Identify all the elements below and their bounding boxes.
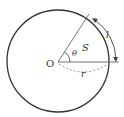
arrowhead-top: [92, 18, 98, 23]
center-label: O: [46, 58, 54, 69]
sector-diagram: O θ S l r: [0, 0, 124, 117]
arrowhead-bottom: [113, 57, 118, 62]
circle: [7, 10, 109, 112]
area-label: S: [82, 42, 89, 53]
angle-arc: [65, 52, 71, 62]
arc-length-label: l: [106, 30, 109, 40]
angle-label: θ: [72, 49, 77, 58]
radius-label: r: [81, 69, 86, 79]
